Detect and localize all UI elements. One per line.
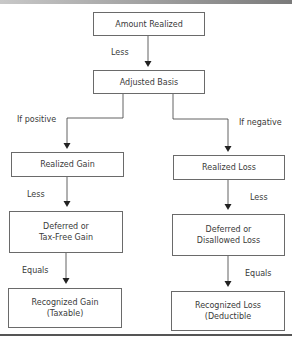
node-recognized-loss-line2: (Deductible <box>205 311 251 322</box>
node-realized-loss: Realized Loss <box>173 155 285 180</box>
edge-label-less-top: Less <box>111 48 129 57</box>
node-amount-realized-label: Amount Realized <box>115 19 183 30</box>
node-realized-gain-label: Realized Gain <box>40 159 95 170</box>
node-recognized-gain-line2: (Taxable) <box>47 308 84 319</box>
node-deferred-loss-line1: Deferred or <box>206 224 252 235</box>
node-realized-gain: Realized Gain <box>11 152 124 177</box>
node-adjusted-basis-label: Adjusted Basis <box>120 77 179 88</box>
node-recognized-gain: Recognized Gain (Taxable) <box>8 288 122 328</box>
node-adjusted-basis: Adjusted Basis <box>93 70 205 94</box>
node-amount-realized: Amount Realized <box>93 12 205 36</box>
edge-label-if-positive: If positive <box>17 115 56 124</box>
node-recognized-gain-line1: Recognized Gain <box>32 297 99 308</box>
node-deferred-gain-line2: Tax-Free Gain <box>39 232 93 243</box>
node-recognized-loss-line1: Recognized Loss <box>195 300 261 311</box>
node-realized-loss-label: Realized Loss <box>202 162 256 173</box>
node-deferred-gain: Deferred or Tax-Free Gain <box>9 211 123 253</box>
edge-label-equals-left: Equals <box>22 266 49 275</box>
edge-label-if-negative: If negative <box>239 118 282 127</box>
edge-label-less-left: Less <box>27 190 45 199</box>
node-deferred-loss-line2: Disallowed Loss <box>197 235 260 246</box>
node-recognized-loss: Recognized Loss (Deductible <box>171 291 285 331</box>
edge-label-equals-right: Equals <box>245 269 272 278</box>
node-deferred-loss: Deferred or Disallowed Loss <box>172 214 285 256</box>
edge-label-less-right: Less <box>250 193 268 202</box>
bottom-rule <box>0 334 292 336</box>
node-deferred-gain-line1: Deferred or <box>43 221 89 232</box>
